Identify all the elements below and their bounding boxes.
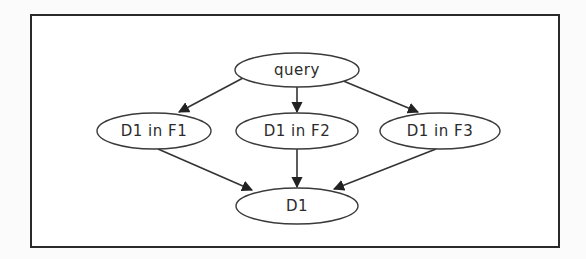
edge-query-to-d1_f3 [341,80,418,112]
edge-query-to-d1_f1 [179,78,243,112]
node-d1_f1: D1 in F1 [97,113,211,149]
node-label: D1 in F2 [264,122,330,140]
node-label: D1 in F3 [407,122,473,140]
nodes-group: queryD1 in F1D1 in F2D1 in F3D1 [97,53,500,224]
node-label: query [274,61,320,79]
node-d1: D1 [236,188,358,224]
node-d1_f3: D1 in F3 [380,113,500,149]
edge-d1_f1-to-d1 [158,149,252,190]
node-label: D1 [286,197,308,215]
node-label: D1 in F1 [121,122,187,140]
edge-d1_f3-to-d1 [334,149,436,189]
figure-canvas: queryD1 in F1D1 in F2D1 in F3D1 [0,0,586,259]
node-d1_f2: D1 in F2 [236,113,358,149]
graph-diagram: queryD1 in F1D1 in F2D1 in F3D1 [0,0,586,259]
node-query: query [235,53,359,87]
